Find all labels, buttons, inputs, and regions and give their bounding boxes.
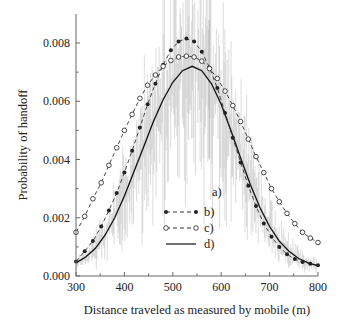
series-b-point — [231, 136, 235, 140]
x-tick-label: 800 — [309, 280, 327, 294]
x-tick-label: 600 — [212, 280, 230, 294]
series-b-point — [285, 252, 289, 256]
series-b-point — [153, 82, 157, 86]
series-b-point — [99, 225, 103, 229]
series-b-point — [223, 111, 227, 115]
y-tick-label: 0.004 — [43, 153, 70, 167]
series-c-point — [285, 211, 290, 216]
series-b-point — [184, 37, 188, 41]
series-b-line — [76, 39, 318, 266]
series-c-point — [308, 236, 313, 241]
legend-label-a: a) — [212, 185, 222, 199]
series-c-point — [82, 214, 87, 219]
series-b-point — [301, 260, 305, 264]
series-b-point — [122, 171, 126, 175]
series-b-point — [246, 184, 250, 188]
series-c-point — [215, 76, 220, 81]
legend-marker-b-right — [194, 210, 198, 214]
series-b-point — [115, 191, 119, 195]
series-c-point — [316, 240, 321, 245]
y-tick-label: 0.008 — [43, 36, 70, 50]
series-c-point — [231, 103, 236, 108]
series-b-point — [316, 263, 320, 267]
series-c-point — [176, 55, 181, 60]
series-c-line — [76, 56, 318, 242]
series-c-point — [107, 163, 112, 168]
x-axis-title: Distance traveled as measured by mobile … — [84, 303, 310, 317]
series-b-point — [270, 235, 274, 239]
series-c-point — [91, 197, 96, 202]
series-b-point — [146, 102, 150, 106]
y-tick-label: 0.006 — [43, 94, 70, 108]
series-c-point — [192, 55, 197, 60]
series-b-point — [91, 239, 95, 243]
x-tick-label: 700 — [261, 280, 279, 294]
series-b-point — [83, 249, 87, 253]
series-c-point — [223, 89, 228, 94]
handoff-probability-chart: 3004005006007008000.0000.0020.0040.0060.… — [0, 0, 350, 327]
series-c-point — [169, 58, 174, 63]
series-layer — [74, 37, 321, 268]
series-c-point — [300, 230, 305, 235]
series-b-point — [262, 222, 266, 226]
series-d-line — [76, 66, 318, 265]
series-c-point — [269, 186, 274, 191]
series-b-point — [277, 245, 281, 249]
series-b-point — [308, 262, 312, 266]
series-c-point — [145, 83, 150, 88]
series-b-point — [169, 48, 173, 52]
series-c-point — [99, 181, 104, 186]
series-c-point — [262, 170, 267, 175]
series-c-point — [114, 146, 119, 151]
x-tick-label: 400 — [115, 280, 133, 294]
legend-marker-c-left — [164, 226, 169, 231]
y-tick-label: 0.002 — [43, 211, 70, 225]
legend-label-c: c) — [204, 221, 214, 235]
series-b-point — [254, 204, 258, 208]
y-axis-title: Probability of handoff — [16, 89, 30, 201]
legend: a) b) c) d) — [164, 185, 222, 251]
legend-label-b: b) — [204, 205, 214, 219]
series-c-point — [130, 112, 135, 117]
series-c-point — [138, 96, 143, 101]
series-b-point — [138, 126, 142, 130]
series-b-point — [130, 149, 134, 153]
series-b-point — [192, 40, 196, 44]
legend-marker-b-left — [164, 210, 168, 214]
series-c-point — [207, 66, 212, 71]
series-b-point — [239, 160, 243, 164]
series-a-noise — [77, 0, 316, 273]
series-b-point — [107, 209, 111, 213]
y-tick-label: 0.000 — [43, 269, 70, 283]
series-b-point — [200, 50, 204, 54]
series-c-point — [153, 73, 158, 78]
series-c-point — [238, 119, 243, 124]
series-c-point — [254, 154, 259, 159]
series-c-point — [246, 137, 251, 142]
series-b-point — [215, 86, 219, 90]
legend-marker-c-right — [194, 226, 199, 231]
series-c-point — [184, 54, 189, 59]
series-b-point — [177, 40, 181, 44]
legend-label-d: d) — [204, 237, 214, 251]
series-c-point — [122, 128, 127, 133]
series-b-point — [293, 257, 297, 261]
series-c-point — [277, 199, 282, 204]
series-c-point — [293, 221, 298, 226]
series-c-point — [161, 64, 166, 69]
series-c-point — [200, 59, 205, 64]
x-tick-label: 500 — [164, 280, 182, 294]
